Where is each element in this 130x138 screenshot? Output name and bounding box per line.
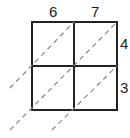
diagonal-2 — [10, 22, 117, 130]
right-digit-2: 3 — [120, 80, 128, 95]
right-digit-1: 4 — [120, 36, 128, 51]
diagonal-1 — [10, 22, 74, 88]
diagonal-3 — [52, 66, 117, 130]
lattice-grid — [0, 0, 130, 138]
top-digit-2: 7 — [91, 4, 99, 19]
top-digit-1: 6 — [49, 4, 57, 19]
